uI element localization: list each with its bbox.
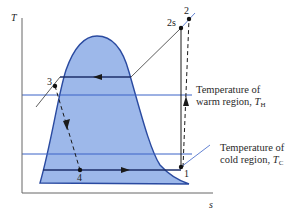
state-point-3 xyxy=(53,84,57,88)
x-axis-label: s xyxy=(209,199,213,210)
state-label-1: 1 xyxy=(184,168,189,179)
arrow-up-icon xyxy=(183,96,189,106)
warm-annotation-line1: Temperature of xyxy=(196,84,266,96)
y-axis-label: T xyxy=(11,12,18,23)
state-label-4: 4 xyxy=(77,172,82,183)
state-point-2 xyxy=(187,17,191,21)
cold-annotation-line2: cold region, TC xyxy=(220,154,284,169)
process-1-2-line xyxy=(183,19,189,167)
warm-region-annotation: Temperature of warm region, TH xyxy=(196,84,266,111)
state-label-2: 2 xyxy=(184,5,189,16)
state-point-2s xyxy=(179,26,183,30)
process-desuperheat-line xyxy=(131,28,181,77)
cold-pointer-line xyxy=(181,145,210,167)
cold-annotation-line1: Temperature of xyxy=(220,142,284,154)
state-label-2s: 2s xyxy=(167,17,176,28)
vapor-dome xyxy=(40,36,189,184)
state-point-1 xyxy=(179,165,183,169)
cold-region-annotation: Temperature of cold region, TC xyxy=(220,142,284,169)
warm-annotation-line2: warm region, TH xyxy=(196,96,266,111)
state-label-3: 3 xyxy=(47,76,52,87)
